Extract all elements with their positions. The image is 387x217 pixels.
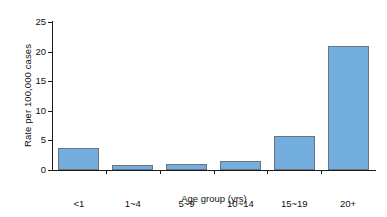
bar — [166, 164, 207, 170]
bar-chart-figure: Rate per 100,000 cases 0510152025 <11~45… — [0, 0, 387, 217]
y-tick-label: 15 — [35, 75, 46, 86]
bar — [220, 161, 261, 170]
y-tick-label: 0 — [41, 164, 46, 175]
bar — [112, 165, 153, 170]
y-tick-mark — [48, 170, 52, 171]
y-tick-label: 10 — [35, 105, 46, 116]
plot-area: 0510152025 <11~45~910~1415~1920+ — [52, 22, 375, 170]
x-tick-mark — [321, 170, 322, 174]
x-tick-mark — [160, 170, 161, 174]
y-tick-label: 25 — [35, 16, 46, 27]
x-tick-mark — [106, 170, 107, 174]
x-tick-mark — [267, 170, 268, 174]
bar — [58, 148, 99, 170]
y-tick-mark — [48, 111, 52, 112]
bar — [328, 46, 369, 170]
y-tick-mark — [48, 81, 52, 82]
y-axis-title: Rate per 100,000 cases — [18, 13, 38, 178]
bar — [274, 136, 315, 170]
y-tick-mark — [48, 22, 52, 23]
y-tick-label: 5 — [41, 134, 46, 145]
y-tick-mark — [48, 52, 52, 53]
x-axis-title: Age group (yrs) — [52, 193, 376, 205]
y-tick-label: 20 — [35, 46, 46, 57]
y-tick-mark — [48, 140, 52, 141]
x-tick-mark — [214, 170, 215, 174]
